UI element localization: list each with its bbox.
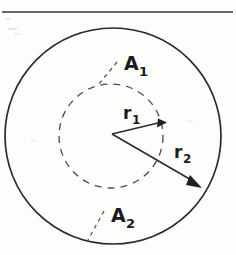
label-a1: A 1 xyxy=(124,52,148,79)
label-r2-base: r xyxy=(174,142,183,162)
leader-line-a2 xyxy=(88,211,104,240)
circle-diagram-svg: A 1 A 2 r 1 r 2 xyxy=(0,0,236,255)
inner-circle-dashed xyxy=(59,84,163,188)
label-r1-subscript: 1 xyxy=(132,113,140,127)
label-a1-subscript: 1 xyxy=(139,64,148,79)
label-a2: A 2 xyxy=(111,204,135,231)
label-r1-base: r xyxy=(123,103,132,123)
label-r2: r 2 xyxy=(174,142,191,166)
leader-line-a1 xyxy=(99,62,117,84)
label-a2-base: A xyxy=(111,204,126,226)
label-a2-subscript: 2 xyxy=(126,216,135,231)
label-r2-subscript: 2 xyxy=(183,152,191,166)
label-r1: r 1 xyxy=(123,103,140,127)
figure-container: A 1 A 2 r 1 r 2 xyxy=(0,0,236,255)
label-a1-base: A xyxy=(124,52,139,74)
